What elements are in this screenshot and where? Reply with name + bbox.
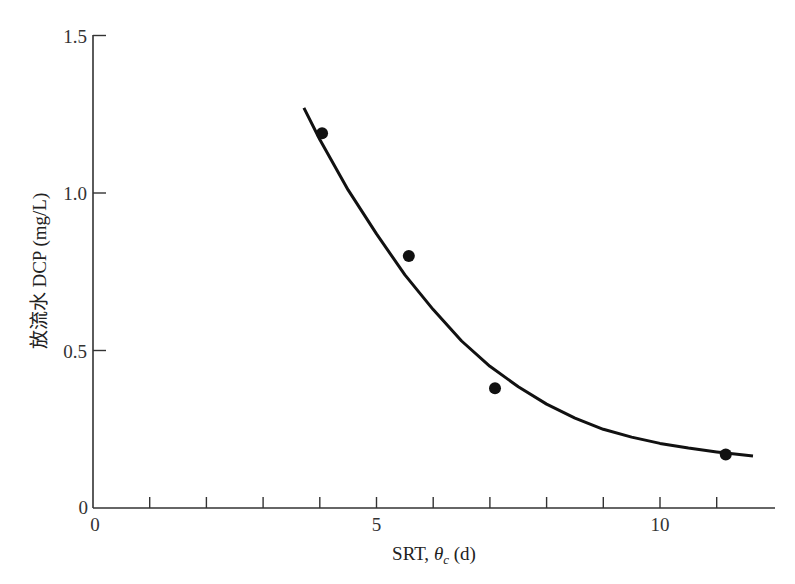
axes: 0510 00.51.01.5 — [63, 26, 775, 536]
data-point-marker — [316, 127, 328, 139]
x-ticks — [150, 497, 717, 508]
y-tick-label: 1.5 — [63, 26, 87, 47]
data-point-marker — [489, 382, 501, 394]
data-point-marker — [720, 448, 732, 460]
y-tick-labels: 00.51.01.5 — [63, 26, 88, 519]
y-tick-label: 1.0 — [63, 183, 87, 204]
y-axis-label: 放流水 DCP (mg/L) — [29, 193, 51, 350]
x-tick-label: 10 — [651, 514, 670, 535]
fitted-curve-line — [304, 108, 753, 456]
x-tick-label: 0 — [90, 514, 100, 535]
data-point-marker — [403, 250, 415, 262]
y-tick-label: 0 — [79, 497, 89, 518]
x-axis-label: SRT, θc (d) — [392, 543, 476, 567]
chart: 0510 00.51.01.5 SRT, θc (d) 放流水 DCP (mg/… — [0, 0, 795, 584]
y-tick-label: 0.5 — [63, 341, 87, 362]
y-ticks — [93, 36, 106, 351]
data-points — [316, 127, 732, 460]
x-tick-label: 5 — [372, 514, 382, 535]
x-tick-labels: 0510 — [90, 514, 669, 535]
